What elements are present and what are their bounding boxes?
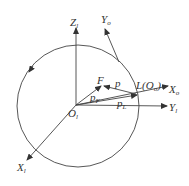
label-x-l: Xl	[16, 161, 26, 175]
label-origin-o-l: Ol	[68, 107, 78, 121]
label-vector-p-f: pF	[89, 91, 101, 105]
label-point-l: L(Oo)	[135, 79, 161, 93]
label-z-l: Zl	[70, 16, 78, 30]
label-point-f: F	[96, 74, 104, 86]
label-vector-p-l: pL	[116, 97, 127, 111]
label-x-o: Xo	[168, 83, 180, 97]
y-o-axis	[105, 29, 119, 62]
label-y-o: Yo	[101, 13, 111, 27]
label-vector-p: p	[114, 77, 121, 89]
vector-p-l	[76, 95, 137, 105]
frame-diagram: Zl Yo Xo Yl Xl Ol F L(Oo) p pF pL	[0, 0, 189, 186]
label-y-l: Yl	[169, 101, 177, 115]
